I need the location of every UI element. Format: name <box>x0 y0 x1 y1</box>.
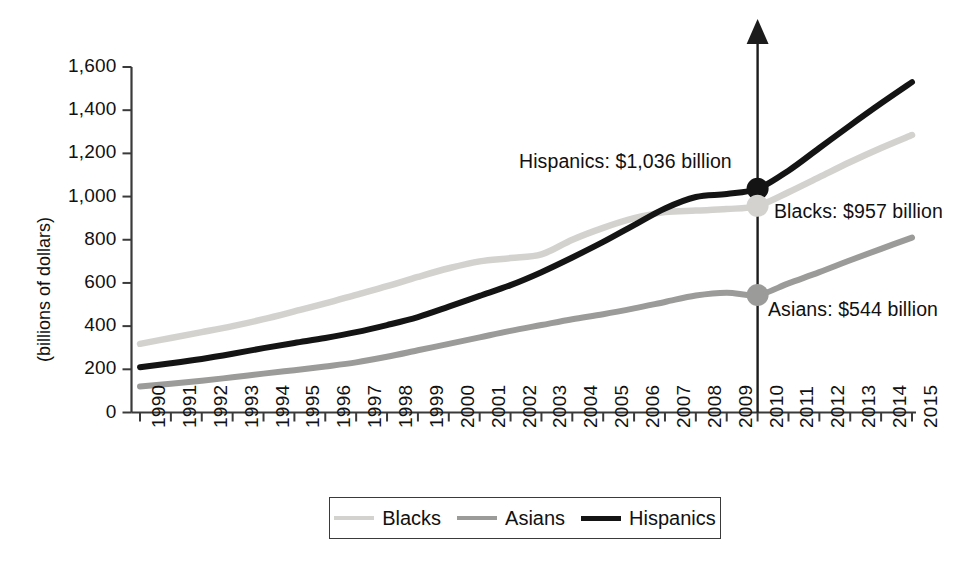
legend-swatch-icon <box>581 516 621 521</box>
line-chart: (billions of dollars) 02004006008001,000… <box>0 0 976 576</box>
x-axis-tick-label: 2002 <box>519 384 541 427</box>
marker-dot-asians <box>747 284 769 306</box>
x-axis-tick-label: 2004 <box>580 384 602 427</box>
x-axis-tick-label: 2011 <box>796 385 818 427</box>
y-axis-ticks <box>123 67 132 413</box>
legend-label: Hispanics <box>629 507 716 530</box>
annotation-hispanics: Hispanics: $1,036 billion <box>519 150 732 173</box>
y-axis-tick-label: 1,000 <box>0 185 117 207</box>
y-axis-tick-label: 1,600 <box>0 55 117 77</box>
x-axis-tick-label: 1993 <box>241 384 263 427</box>
plot-area <box>0 0 976 576</box>
y-axis-tick-label: 600 <box>0 271 117 293</box>
legend-swatch-icon <box>334 516 374 520</box>
x-axis-tick-label: 1995 <box>302 384 324 427</box>
x-axis-tick-label: 2005 <box>611 384 633 427</box>
x-axis-tick-label: 1991 <box>179 384 201 427</box>
x-axis-tick-label: 2015 <box>920 384 942 427</box>
y-axis-tick-label: 800 <box>0 228 117 250</box>
x-axis-tick-label: 2013 <box>858 384 880 427</box>
marker-dot-blacks <box>747 195 769 217</box>
x-axis-tick-label: 2008 <box>704 384 726 427</box>
legend-item-blacks: Blacks <box>334 507 441 530</box>
callout-arrowhead <box>747 19 769 44</box>
y-axis-tick-label: 200 <box>0 357 117 379</box>
chart-legend: BlacksAsiansHispanics <box>329 497 721 539</box>
x-axis-tick-label: 2007 <box>673 384 695 427</box>
x-axis-tick-label: 1999 <box>426 384 448 427</box>
x-axis-tick-label: 2012 <box>827 384 849 427</box>
annotation-asians: Asians: $544 billion <box>768 298 938 321</box>
y-axis-tick-label: 400 <box>0 314 117 336</box>
x-axis-tick-label: 2009 <box>735 384 757 427</box>
y-axis-tick-label: 1,400 <box>0 98 117 120</box>
x-axis-tick-label: 2010 <box>766 384 788 427</box>
axis-lines <box>132 67 917 413</box>
x-axis-tick-label: 2003 <box>549 384 571 427</box>
x-axis-tick-label: 2006 <box>642 384 664 427</box>
legend-label: Asians <box>505 507 565 530</box>
x-axis-tick-label: 2014 <box>889 384 911 427</box>
x-axis-tick-label: 1998 <box>395 384 417 427</box>
x-axis-tick-label: 1992 <box>210 384 232 427</box>
x-axis-tick-label: 1990 <box>148 384 170 427</box>
data-series-group <box>140 82 912 386</box>
annotation-blacks: Blacks: $957 billion <box>774 200 943 223</box>
x-axis-tick-label: 2000 <box>457 384 479 427</box>
series-line-hispanics <box>140 82 912 367</box>
legend-item-asians: Asians <box>457 507 565 530</box>
x-axis-tick-label: 1994 <box>272 384 294 427</box>
x-axis-tick-label: 1997 <box>364 384 386 427</box>
x-axis-tick-label: 2001 <box>488 384 510 427</box>
y-axis-tick-label: 1,200 <box>0 141 117 163</box>
legend-swatch-icon <box>457 516 497 520</box>
legend-label: Blacks <box>382 507 441 530</box>
legend-item-hispanics: Hispanics <box>581 507 716 530</box>
y-axis-tick-label: 0 <box>0 401 117 423</box>
x-axis-tick-label: 1996 <box>333 384 355 427</box>
